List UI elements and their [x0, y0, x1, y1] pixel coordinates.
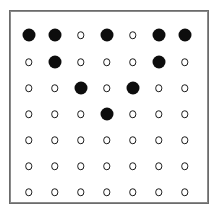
filled-dot-icon: [100, 29, 113, 42]
grid-frame: [9, 10, 209, 204]
open-circle-icon: [25, 110, 33, 118]
open-circle-icon: [181, 84, 189, 92]
open-circle-icon: [129, 110, 137, 118]
open-circle-icon: [129, 162, 137, 170]
open-circle-icon: [77, 31, 85, 39]
open-circle-icon: [77, 110, 85, 118]
open-circle-icon: [77, 162, 85, 170]
filled-dot-icon: [152, 29, 165, 42]
open-circle-icon: [155, 84, 163, 92]
figure-root: [0, 0, 219, 220]
filled-dot-icon: [100, 108, 113, 121]
open-circle-icon: [181, 162, 189, 170]
open-circle-icon: [181, 188, 189, 196]
open-circle-icon: [77, 188, 85, 196]
filled-dot-icon: [126, 82, 139, 95]
open-circle-icon: [25, 84, 33, 92]
open-circle-icon: [25, 188, 33, 196]
open-circle-icon: [181, 58, 189, 66]
open-circle-icon: [25, 162, 33, 170]
open-circle-icon: [155, 162, 163, 170]
open-circle-icon: [103, 84, 111, 92]
open-circle-icon: [77, 58, 85, 66]
open-circle-icon: [181, 110, 189, 118]
open-circle-icon: [77, 136, 85, 144]
filled-dot-icon: [178, 29, 191, 42]
open-circle-icon: [103, 162, 111, 170]
open-circle-icon: [155, 110, 163, 118]
open-circle-icon: [25, 58, 33, 66]
open-circle-icon: [103, 58, 111, 66]
open-circle-icon: [51, 162, 59, 170]
open-circle-icon: [129, 31, 137, 39]
open-circle-icon: [103, 188, 111, 196]
open-circle-icon: [129, 136, 137, 144]
open-circle-icon: [129, 188, 137, 196]
open-circle-icon: [103, 136, 111, 144]
open-circle-icon: [51, 188, 59, 196]
filled-dot-icon: [48, 56, 61, 69]
filled-dot-icon: [74, 82, 87, 95]
open-circle-icon: [155, 188, 163, 196]
open-circle-icon: [51, 136, 59, 144]
open-circle-icon: [155, 136, 163, 144]
open-circle-icon: [51, 110, 59, 118]
filled-dot-icon: [48, 29, 61, 42]
filled-dot-icon: [152, 56, 165, 69]
open-circle-icon: [129, 58, 137, 66]
open-circle-icon: [181, 136, 189, 144]
open-circle-icon: [25, 136, 33, 144]
filled-dot-icon: [22, 29, 35, 42]
open-circle-icon: [51, 84, 59, 92]
